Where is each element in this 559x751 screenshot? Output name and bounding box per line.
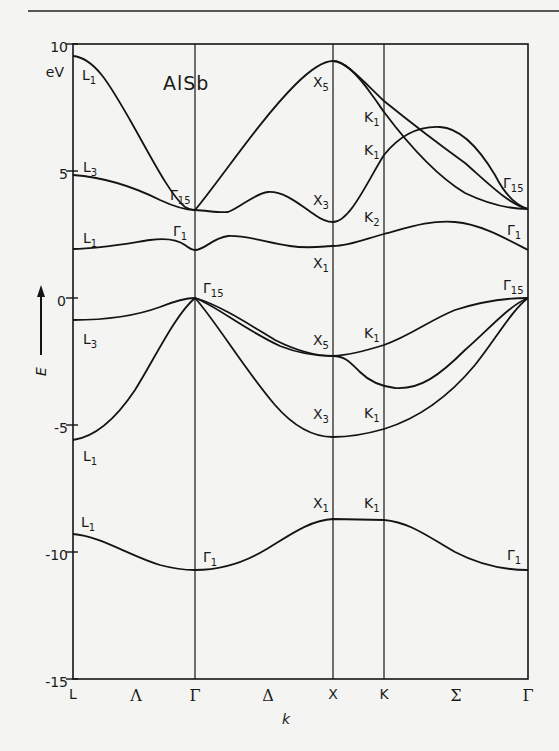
label-X1-cond: X1: [313, 255, 329, 274]
label-K1-val-a: K1: [364, 325, 380, 344]
label-L3-val: L3: [83, 331, 97, 350]
k-label-gamma: Γ: [189, 686, 200, 705]
y-tick-10: 10: [50, 39, 68, 55]
e-label: E: [33, 367, 49, 376]
label-L1-low: L1: [81, 514, 95, 533]
y-tick-5: 5: [59, 166, 68, 182]
label-G1-cond: Γ1: [173, 223, 187, 242]
k-label-X: X: [328, 686, 338, 702]
label-G15-cond: Γ15: [170, 187, 191, 206]
energy-axis-label: E: [33, 285, 49, 376]
k-label-gamma-end: Γ: [522, 686, 533, 705]
label-L1-cond: L1: [83, 230, 97, 249]
label-X5-top: X5: [313, 74, 329, 93]
k-label-delta: Δ: [262, 686, 274, 705]
figure-title: AlSb: [163, 72, 209, 94]
label-K1-val-b: K1: [364, 405, 380, 424]
band-7: [195, 61, 528, 210]
y-tick-0: 0: [57, 293, 66, 309]
label-G15-val: Γ15: [203, 280, 224, 299]
label-G1-right-low: Γ1: [507, 547, 521, 566]
label-K1-b: K1: [364, 142, 380, 161]
band-5: [73, 222, 528, 250]
y-tick-minus10: -10: [45, 547, 68, 563]
label-X5-val: X5: [313, 332, 329, 351]
label-G1-right-cond: Γ1: [507, 222, 521, 241]
label-L3-upper: L3: [83, 159, 97, 178]
y-tick-minus5: -5: [54, 420, 68, 436]
band-3: [73, 298, 528, 388]
label-X3-val: X3: [313, 406, 329, 425]
unit-label: eV: [46, 64, 65, 80]
k-label-lambda: Λ: [129, 686, 142, 705]
k-label-L: L: [69, 686, 77, 702]
label-X1-low: X1: [313, 495, 329, 514]
k-label-K: K: [379, 686, 389, 702]
label-X3-cond: X3: [313, 192, 329, 211]
symmetry-labels: L1 L3 L1 L3 L1 L1 Γ15 Γ1 Γ15 Γ1 X5 X3 X1…: [81, 67, 524, 568]
label-L1-top: L1: [82, 67, 96, 86]
label-G15-right-val: Γ15: [503, 277, 524, 296]
label-K1-a: K1: [364, 109, 380, 128]
label-K2-cond: K2: [364, 209, 380, 228]
label-L1-val: L1: [83, 448, 97, 467]
label-G15-right-cond: Γ15: [503, 175, 524, 194]
label-K1-low: K1: [364, 495, 380, 514]
y-tick-minus15: -15: [45, 674, 68, 690]
arrowhead-icon: [37, 285, 45, 297]
bands: [73, 56, 528, 570]
band-1: [73, 519, 528, 570]
label-G1-low: Γ1: [203, 549, 217, 568]
k-axis: L Λ Γ Δ X K Σ Γ k: [69, 686, 533, 727]
band-structure-figure: 10 eV 5 0 -5 -10 -15 E AlSb L Λ Γ Δ X K …: [0, 0, 559, 751]
band-2: [73, 298, 528, 440]
k-label-sigma: Σ: [450, 686, 461, 705]
k-axis-title: k: [282, 711, 291, 727]
